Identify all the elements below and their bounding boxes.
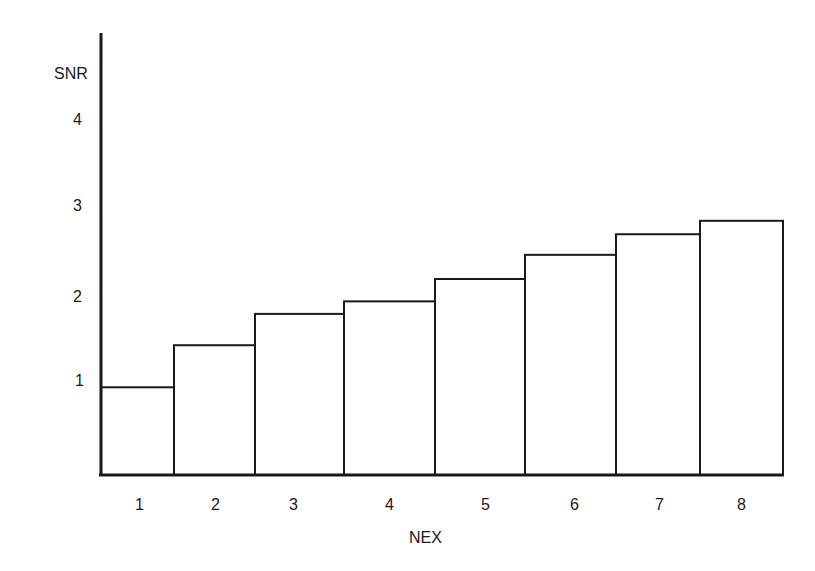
- bars: [101, 221, 783, 475]
- bar-nex-4: [344, 301, 435, 475]
- y-tick-4: 4: [73, 112, 82, 128]
- bar-nex-6: [525, 255, 616, 475]
- bar-nex-1: [101, 387, 174, 475]
- y-tick-2: 2: [73, 289, 82, 305]
- y-tick-3: 3: [73, 198, 82, 214]
- y-axis-label: SNR: [54, 66, 88, 82]
- x-tick-8: 8: [737, 497, 746, 513]
- x-axis-label: NEX: [409, 530, 442, 546]
- chart-canvas: [0, 0, 815, 571]
- x-tick-3: 3: [289, 497, 298, 513]
- bar-nex-8: [700, 221, 783, 475]
- bar-nex-3: [255, 314, 344, 475]
- bar-nex-2: [174, 345, 255, 475]
- x-tick-6: 6: [570, 497, 579, 513]
- x-tick-7: 7: [655, 497, 664, 513]
- x-tick-1: 1: [135, 497, 144, 513]
- x-tick-5: 5: [481, 497, 490, 513]
- x-tick-4: 4: [385, 497, 394, 513]
- x-tick-2: 2: [211, 497, 220, 513]
- bar-nex-7: [616, 234, 700, 475]
- y-tick-1: 1: [75, 373, 84, 389]
- bar-nex-5: [435, 279, 525, 475]
